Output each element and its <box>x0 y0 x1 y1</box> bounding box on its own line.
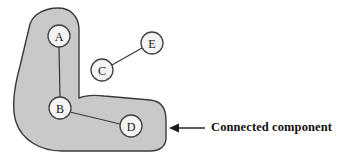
annotation-label: Connected component <box>211 120 332 135</box>
node-b[interactable]: B <box>49 97 71 119</box>
node-a-label: A <box>55 30 64 44</box>
arrow-head <box>169 124 179 133</box>
pointer-arrow-icon <box>169 124 205 133</box>
node-d-label: D <box>127 120 136 134</box>
node-b-label: B <box>56 102 64 116</box>
connected-component-region <box>13 8 166 151</box>
node-c[interactable]: C <box>91 59 113 81</box>
node-e[interactable]: E <box>141 32 163 54</box>
diagram-canvas: A B C D E Connected co <box>0 0 342 158</box>
edge-c-e <box>112 48 142 65</box>
node-a[interactable]: A <box>48 25 70 47</box>
node-e-label: E <box>148 37 155 51</box>
node-c-label: C <box>98 64 106 78</box>
node-d[interactable]: D <box>120 115 142 137</box>
